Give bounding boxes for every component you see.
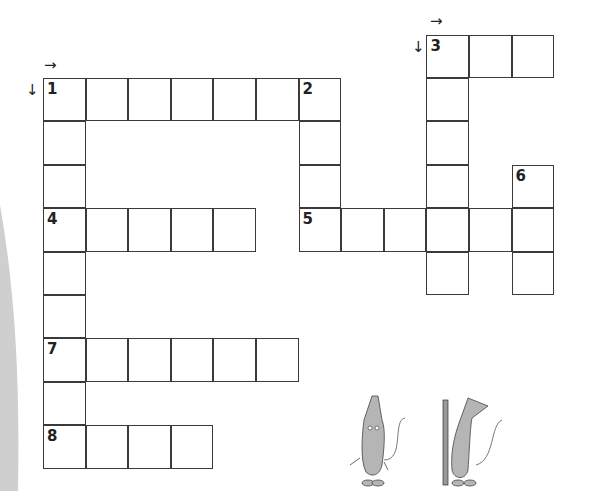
crossword-cell[interactable]	[213, 208, 256, 251]
crossword-cell[interactable]: 2	[299, 78, 342, 121]
crossword-cell[interactable]	[171, 78, 214, 121]
arrow-right-icon-1: →	[44, 58, 57, 73]
crossword-cell[interactable]	[128, 208, 171, 251]
crossword-cell[interactable]	[43, 295, 86, 338]
clue-number: 3	[430, 37, 440, 55]
arrow-down-icon-1: ↓	[26, 83, 39, 98]
crossword-cell[interactable]	[171, 208, 214, 251]
arrow-down-icon-3: ↓	[412, 40, 425, 55]
crossword-cell[interactable]	[86, 208, 129, 251]
crossword-cell[interactable]	[512, 252, 555, 295]
clue-number: 4	[47, 210, 57, 228]
crossword-cell[interactable]	[213, 338, 256, 381]
arrow-right-icon-3: →	[430, 14, 443, 29]
crossword-cell[interactable]	[426, 78, 469, 121]
crossword-cell[interactable]	[426, 208, 469, 251]
crossword-cell[interactable]	[256, 78, 299, 121]
crossword-cell[interactable]: 7	[43, 338, 86, 381]
crossword-cell[interactable]	[128, 78, 171, 121]
crossword-cell[interactable]	[43, 165, 86, 208]
crossword-cell[interactable]: 5	[299, 208, 342, 251]
crossword-cell[interactable]	[128, 338, 171, 381]
crossword-cell[interactable]: 4	[43, 208, 86, 251]
crossword-cell[interactable]	[43, 252, 86, 295]
crossword-cell[interactable]	[43, 121, 86, 164]
crossword-cell[interactable]	[43, 382, 86, 425]
clue-number: 8	[47, 427, 57, 445]
crossword-cell[interactable]	[213, 78, 256, 121]
crossword-cell[interactable]	[512, 208, 555, 251]
crossword-cell[interactable]	[426, 121, 469, 164]
clue-number: 2	[303, 80, 313, 98]
crossword-cell[interactable]	[384, 208, 427, 251]
crossword-cell[interactable]: 3	[426, 35, 469, 78]
cartoon-mice-illustration	[350, 390, 510, 491]
clue-number: 7	[47, 340, 57, 358]
crossword-cell[interactable]	[86, 338, 129, 381]
crossword-cell[interactable]	[426, 252, 469, 295]
crossword-cell[interactable]	[171, 425, 214, 468]
crossword-cell[interactable]	[299, 165, 342, 208]
crossword-cell[interactable]	[512, 35, 555, 78]
crossword-cell[interactable]	[86, 425, 129, 468]
crossword-cell[interactable]: 6	[512, 165, 555, 208]
crossword-cell[interactable]	[426, 165, 469, 208]
crossword-cell[interactable]: 1	[43, 78, 86, 121]
crossword-cell[interactable]	[171, 338, 214, 381]
crossword-cell[interactable]	[469, 208, 512, 251]
clue-number: 5	[303, 210, 313, 228]
crossword-cell[interactable]: 8	[43, 425, 86, 468]
clue-number: 1	[47, 80, 57, 98]
crossword-cell[interactable]	[469, 35, 512, 78]
crossword-cell[interactable]	[128, 425, 171, 468]
crossword-cell[interactable]	[256, 338, 299, 381]
clue-number: 6	[516, 167, 526, 185]
crossword-cell[interactable]	[86, 78, 129, 121]
crossword-cell[interactable]	[299, 121, 342, 164]
crossword-cell[interactable]	[341, 208, 384, 251]
